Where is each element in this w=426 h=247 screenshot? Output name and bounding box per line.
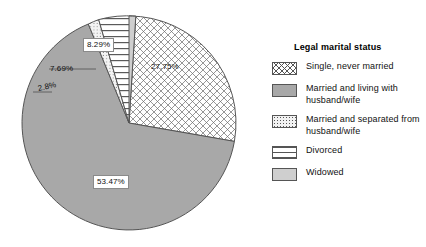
legend-swatch-light-gray-icon	[272, 168, 297, 181]
legend-label-widowed: Widowed	[306, 167, 344, 179]
legend-item-widowed[interactable]: Widowed	[272, 167, 426, 181]
legend-label-married-separated: Married and separated from husband/wife	[306, 114, 426, 137]
slice-value-married-living-with: 53.47%	[93, 175, 129, 189]
pie-slice-single-never-married[interactable]	[129, 16, 236, 141]
legend-label-divorced: Divorced	[306, 145, 342, 157]
slice-value-divorced: 7.69%	[50, 64, 73, 74]
legend-item-married-separated[interactable]: Married and separated from husband/wife	[272, 114, 426, 137]
pie-chart-plot-area: 27.75% 53.47% 2.8% 7.69% 8.29%	[0, 0, 262, 247]
legend-swatch-dotted-icon	[272, 115, 297, 128]
legend: Legal marital status Single, never marri…	[272, 42, 426, 189]
legend-swatch-crosshatch-icon	[272, 62, 297, 75]
legend-item-single-never-married[interactable]: Single, never married	[272, 61, 426, 75]
legend-item-divorced[interactable]: Divorced	[272, 145, 426, 159]
legend-item-married-living-with[interactable]: Married and living with husband/wife	[272, 83, 426, 106]
slice-value-single-never-married: 27.75%	[151, 62, 179, 72]
legend-label-single-never-married: Single, never married	[306, 61, 394, 73]
pie-svg	[0, 0, 262, 247]
slice-value-widowed: 8.29%	[83, 38, 114, 52]
legend-title: Legal marital status	[294, 42, 426, 52]
legend-swatch-horizontal-lines-icon	[272, 146, 297, 159]
legend-label-married-living-with: Married and living with husband/wife	[306, 83, 426, 106]
legend-swatch-solid-gray-icon	[272, 84, 297, 97]
pie-chart-figure: 27.75% 53.47% 2.8% 7.69% 8.29% Legal mar…	[0, 0, 426, 247]
